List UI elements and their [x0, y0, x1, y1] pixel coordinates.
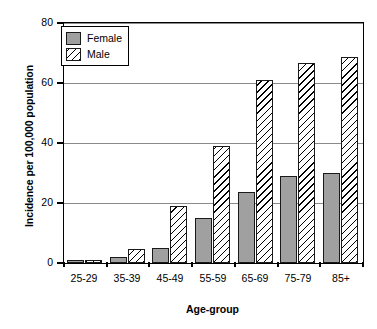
bar-female-85+ — [323, 173, 340, 263]
bar-female-45-49 — [152, 248, 169, 263]
chart-legend: Female Male — [61, 26, 129, 66]
gridline — [64, 83, 363, 84]
x-tick-mark — [63, 262, 65, 267]
bar-female-25-29 — [67, 260, 84, 263]
legend-label-male: Male — [87, 49, 110, 60]
bar-female-55-59 — [195, 218, 212, 263]
y-tick-label: 20 — [11, 197, 53, 208]
x-tick-mark — [234, 262, 236, 267]
legend-swatch-female-icon — [66, 32, 81, 45]
x-tick-mark — [148, 262, 150, 267]
y-tick-label: 40 — [11, 137, 53, 148]
x-tick-mark — [319, 262, 321, 267]
bar-male-25-29 — [85, 260, 102, 263]
legend-item-female: Female — [66, 30, 122, 46]
x-axis-title: Age-group — [63, 303, 362, 315]
bar-male-85+ — [341, 57, 358, 263]
bar-male-55-59 — [213, 146, 230, 263]
y-tick-label: 0 — [11, 257, 53, 268]
y-tick-mark — [57, 202, 63, 204]
x-tick-mark — [106, 262, 108, 267]
y-tick-mark — [57, 82, 63, 84]
y-tick-mark — [57, 22, 63, 24]
legend-label-female: Female — [87, 33, 122, 44]
bar-male-75-79 — [298, 63, 315, 263]
x-tick-mark — [191, 262, 193, 267]
x-tick-mark — [277, 262, 279, 267]
legend-swatch-male-icon — [66, 48, 81, 61]
gridline — [64, 23, 363, 24]
y-tick-label: 80 — [11, 17, 53, 28]
legend-item-male: Male — [66, 46, 122, 62]
bar-male-45-49 — [170, 206, 187, 263]
x-tick-mark — [362, 262, 364, 267]
x-tick-label: 85+ — [314, 272, 368, 284]
gridline — [64, 143, 363, 144]
y-tick-mark — [57, 142, 63, 144]
bar-male-35-39 — [128, 249, 145, 263]
bar-chart: Incidence per 100,000 population 0204060… — [0, 0, 377, 329]
bar-female-75-79 — [280, 176, 297, 263]
bar-male-65-69 — [256, 80, 273, 263]
y-tick-label: 60 — [11, 77, 53, 88]
bar-female-65-69 — [238, 192, 255, 263]
bar-female-35-39 — [110, 257, 127, 263]
